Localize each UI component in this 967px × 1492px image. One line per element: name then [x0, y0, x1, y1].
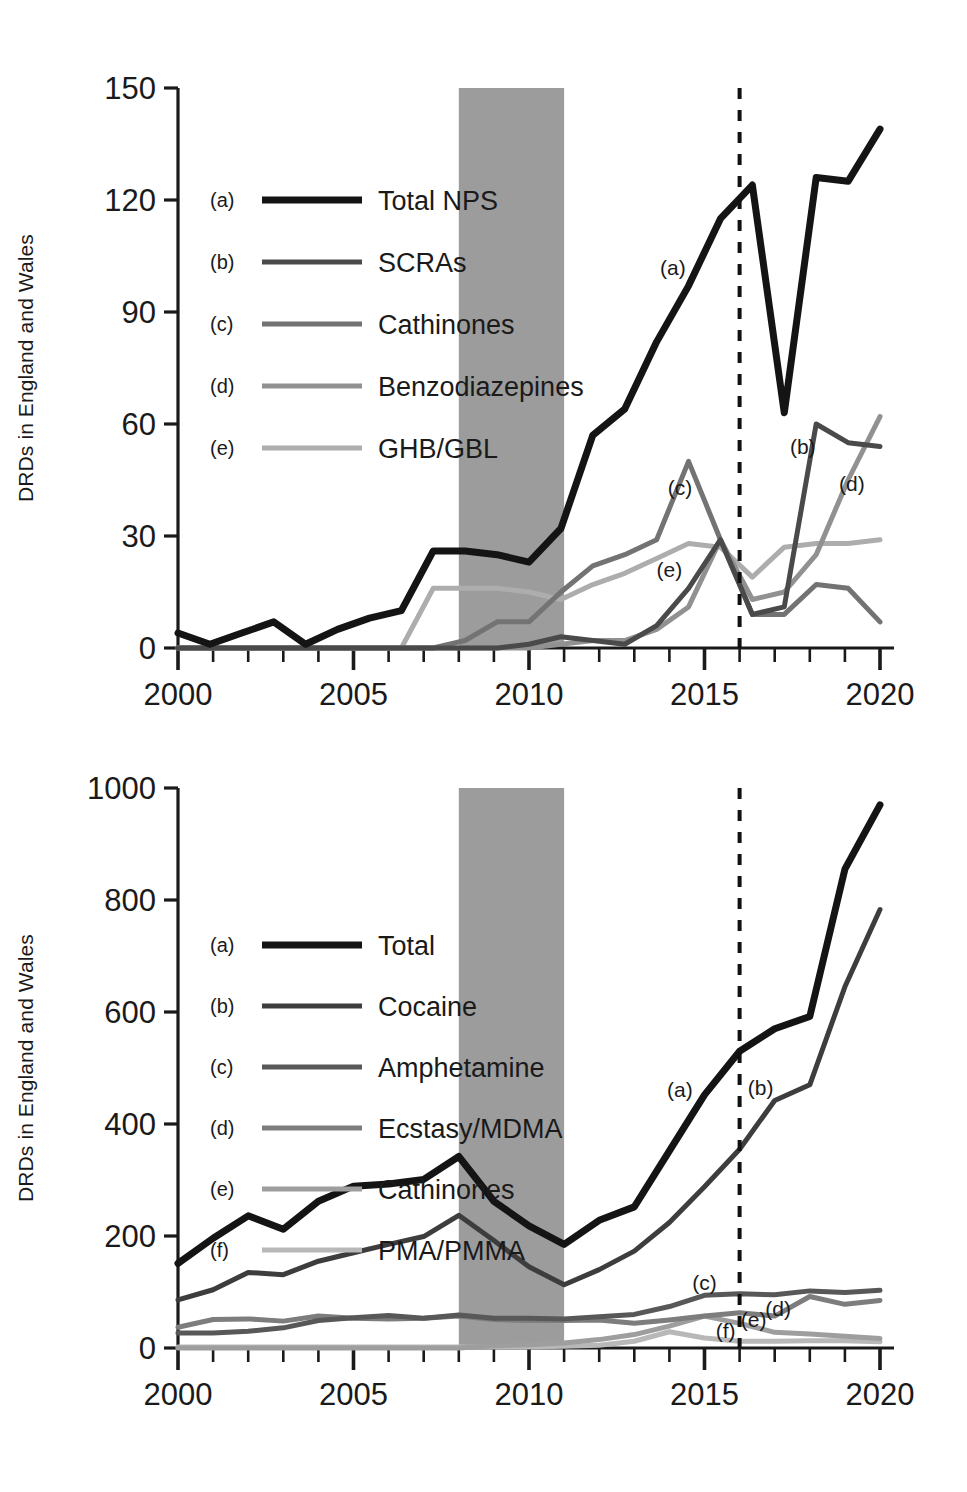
y-axis-tick-label: 30: [122, 519, 156, 554]
y-axis-tick-label: 400: [104, 1107, 156, 1142]
series-annotation: (a): [660, 256, 686, 279]
legend-key: (e): [210, 1178, 234, 1200]
series-annotation: (e): [657, 558, 683, 581]
x-axis-tick-label: 2000: [144, 677, 213, 712]
x-axis-tick-label: 2005: [319, 1377, 388, 1412]
chart-panel-top: DRDs in England and Wales 03060901201502…: [0, 0, 967, 730]
y-axis-tick-label: 600: [104, 995, 156, 1030]
legend-label: Total NPS: [378, 186, 498, 216]
y-axis-tick-label: 90: [122, 295, 156, 330]
legend-key: (b): [210, 251, 234, 273]
x-axis-tick-label: 2000: [144, 1377, 213, 1412]
legend-label: PMA/PMMA: [378, 1236, 525, 1266]
legend-label: Benzodiazepines: [378, 372, 584, 402]
y-axis-tick-label: 60: [122, 407, 156, 442]
legend-key: (d): [210, 1117, 234, 1139]
legend-label: Cocaine: [378, 992, 477, 1022]
legend-label: Total: [378, 931, 435, 961]
legend-key: (d): [210, 375, 234, 397]
y-axis-tick-label: 800: [104, 883, 156, 918]
legend-key: (c): [210, 1056, 233, 1078]
x-axis-tick-label: 2010: [495, 1377, 564, 1412]
legend-key: (f): [210, 1239, 229, 1261]
legend-key: (a): [210, 934, 234, 956]
x-axis-tick-label: 2020: [846, 1377, 915, 1412]
legend-label: GHB/GBL: [378, 434, 498, 464]
series-annotation: (e): [741, 1308, 767, 1331]
plot-area-bottom: 0200400600800100020002005201020152020(a)…: [0, 730, 967, 1492]
legend-key: (b): [210, 995, 234, 1017]
series-annotation: (c): [692, 1271, 717, 1294]
x-axis-tick-label: 2015: [670, 1377, 739, 1412]
x-axis-tick-label: 2010: [495, 677, 564, 712]
y-axis-tick-label: 150: [104, 71, 156, 106]
y-axis-tick-label: 1000: [87, 771, 156, 806]
legend-key: (c): [210, 313, 233, 335]
y-axis-tick-label: 0: [139, 1331, 156, 1366]
series-annotation: (f): [716, 1319, 736, 1342]
chart-panel-bottom: DRDs in England and Wales 02004006008001…: [0, 730, 967, 1492]
series-annotation: (d): [839, 472, 865, 495]
series-annotation: (d): [765, 1297, 791, 1320]
legend-label: Cathinones: [378, 310, 515, 340]
legend-key: (e): [210, 437, 234, 459]
legend-label: Amphetamine: [378, 1053, 545, 1083]
y-axis-tick-label: 200: [104, 1219, 156, 1254]
series-annotation: (c): [668, 476, 693, 499]
shaded-band: [459, 88, 564, 648]
series-annotation: (b): [790, 435, 816, 458]
series-annotation: (b): [748, 1076, 774, 1099]
x-axis-tick-label: 2005: [319, 677, 388, 712]
legend-label: SCRAs: [378, 248, 467, 278]
x-axis-tick-label: 2020: [846, 677, 915, 712]
legend-label: Ecstasy/MDMA: [378, 1114, 563, 1144]
y-axis-tick-label: 0: [139, 631, 156, 666]
legend-key: (a): [210, 189, 234, 211]
y-axis-tick-label: 120: [104, 183, 156, 218]
x-axis-tick-label: 2015: [670, 677, 739, 712]
figure-root: DRDs in England and Wales 03060901201502…: [0, 0, 967, 1492]
legend-label: Cathinones: [378, 1175, 515, 1205]
series-annotation: (a): [667, 1078, 693, 1101]
plot-area-top: 030609012015020002005201020152020(a)Tota…: [0, 0, 967, 730]
